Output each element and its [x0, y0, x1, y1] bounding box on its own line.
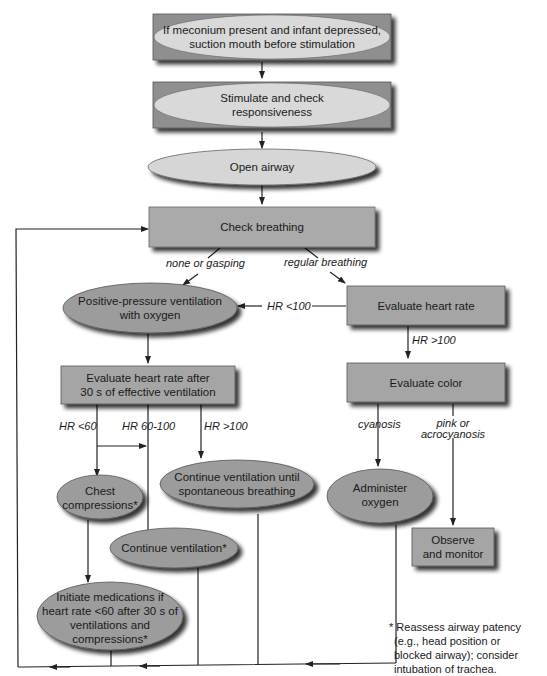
label-hr-gt-100-left: HR >100	[204, 420, 249, 432]
node-meconium-ellipse	[154, 15, 390, 59]
node-continue-ventilation: Continue ventilation*	[110, 528, 238, 568]
node-meconium: If meconium present and infant depressed…	[153, 14, 391, 60]
node-continue-until: Continue ventilation until spontaneous b…	[160, 460, 314, 508]
node-ppv-ellipse	[63, 283, 237, 333]
edge-labels: none or gasping regular breathing HR <10…	[59, 256, 486, 440]
node-continue-until-line2: spontaneous breathing	[178, 485, 295, 497]
node-stimulate-line2: responsiveness	[232, 106, 312, 118]
node-eval-hr: Evaluate heart rate	[347, 286, 505, 325]
node-eval-hr-after-line1: Evaluate heart rate after	[86, 372, 210, 384]
label-none-or-gasping: none or gasping	[166, 257, 246, 269]
label-hr-lt-100: HR <100	[267, 300, 312, 312]
footnote-line3: blocked airway); consider	[394, 649, 518, 661]
node-eval-color: Evaluate color	[347, 363, 505, 402]
node-ppv: Positive-pressure ventilation with oxyge…	[63, 283, 237, 333]
node-eval-hr-label: Evaluate heart rate	[377, 300, 474, 312]
node-observe-line1: Observe	[431, 534, 474, 546]
arrow-none-gasping	[183, 274, 198, 285]
node-administer-line1: Administer	[353, 482, 407, 494]
node-ppv-line2: with oxygen	[119, 309, 181, 321]
node-check-breathing: Check breathing	[149, 207, 375, 247]
label-hr-60-100: HR 60-100	[122, 420, 176, 432]
node-meconium-line1: If meconium present and infant depressed…	[163, 24, 381, 36]
node-stimulate-ellipse	[154, 83, 390, 127]
neonatal-resuscitation-flowchart: If meconium present and infant depressed…	[0, 0, 547, 676]
node-stimulate-line1: Stimulate and check	[220, 92, 324, 104]
node-continue-vent-label: Continue ventilation*	[121, 542, 227, 554]
node-medications-line3: ventilations and	[70, 619, 150, 631]
node-observe-line2: and monitor	[423, 548, 484, 560]
node-eval-hr-after: Evaluate heart rate after 30 s of effect…	[61, 366, 235, 404]
node-medications: Initiate medications if heart rate <60 a…	[37, 582, 183, 650]
node-continue-until-line1: Continue ventilation until	[174, 471, 299, 483]
node-chest-ellipse	[57, 475, 143, 519]
label-acrocyanosis: acrocyanosis	[421, 428, 486, 440]
arrow-regular	[330, 272, 345, 283]
node-check-breathing-label: Check breathing	[220, 221, 304, 233]
label-cyanosis: cyanosis	[358, 418, 401, 430]
node-medications-line4: compressions*	[72, 633, 148, 645]
node-chest-compressions: Chest compressions*	[57, 475, 143, 519]
node-stimulate: Stimulate and check responsiveness	[153, 82, 391, 128]
label-hr-gt-100-right: HR >100	[412, 334, 457, 346]
node-eval-color-label: Evaluate color	[390, 377, 463, 389]
node-medications-line1: Initiate medications if	[56, 591, 164, 603]
node-ppv-line1: Positive-pressure ventilation	[78, 295, 222, 307]
node-eval-hr-after-line2: 30 s of effective ventilation	[80, 386, 215, 398]
node-administer-line2: oxygen	[361, 496, 398, 508]
node-chest-line1: Chest	[85, 485, 116, 497]
label-hr-lt-60: HR <60	[59, 420, 97, 432]
footnote-line2: (e.g., head position or	[394, 635, 501, 647]
node-observe: Observe and monitor	[412, 528, 494, 566]
node-open-airway-label: Open airway	[230, 161, 295, 173]
node-medications-line2: heart rate <60 after 30 s of	[42, 605, 179, 617]
node-continue-until-ellipse	[160, 460, 314, 508]
node-open-airway: Open airway	[148, 149, 376, 185]
node-administer-oxygen: Administer oxygen	[327, 469, 433, 523]
node-meconium-line2: suction mouth before stimulation	[189, 38, 355, 50]
footnote-line4: intubation of trachea.	[394, 663, 497, 675]
label-regular-breathing: regular breathing	[284, 256, 368, 268]
footnote-line1: * Reassess airway patency	[389, 621, 522, 633]
node-chest-line2: compressions*	[62, 499, 138, 511]
footnote: * Reassess airway patency (e.g., head po…	[389, 621, 522, 675]
